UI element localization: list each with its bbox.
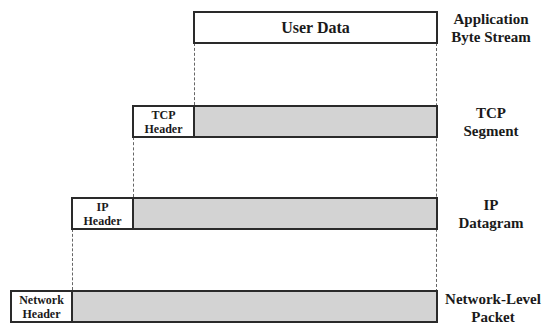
network-payload-box (73, 290, 438, 323)
layer-label-application: Application Byte Stream (426, 10, 556, 46)
header-line: IP (84, 200, 122, 214)
layer-label-ip: IP Datagram (426, 196, 556, 232)
header-line: Header (145, 122, 183, 136)
layer-label-tcp: TCP Segment (426, 104, 556, 140)
user-data-box: User Data (193, 11, 438, 44)
guide-line-right (436, 43, 437, 292)
network-header-box: Network Header (10, 290, 73, 323)
tcp-payload-box (195, 105, 438, 138)
label-line: TCP (426, 104, 556, 122)
label-line: Application (426, 10, 556, 28)
header-line: Header (84, 214, 122, 228)
guide-line-userdata-left (194, 43, 195, 105)
label-line: Datagram (426, 214, 556, 232)
ip-payload-box (134, 197, 438, 230)
label-line: Network-Level (426, 290, 557, 308)
layer-label-network: Network-Level Packet (426, 290, 557, 326)
user-data-label: User Data (281, 19, 350, 37)
label-line: Segment (426, 122, 556, 140)
ip-header-box: IP Header (71, 197, 134, 230)
header-line: TCP (145, 108, 183, 122)
header-line: Header (19, 307, 64, 321)
label-line: Packet (426, 308, 557, 326)
tcp-header-box: TCP Header (132, 105, 195, 138)
guide-line-ip-left (72, 229, 73, 290)
guide-line-tcp-left (133, 137, 134, 197)
header-line: Network (19, 293, 64, 307)
label-line: Byte Stream (426, 28, 556, 46)
label-line: IP (426, 196, 556, 214)
